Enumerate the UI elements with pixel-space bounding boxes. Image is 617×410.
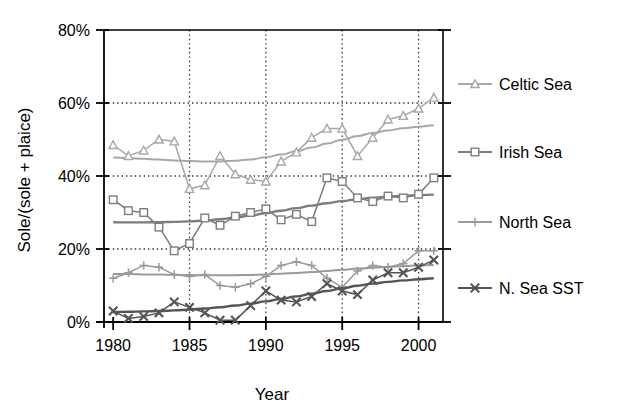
data-marker — [384, 192, 392, 200]
data-marker — [308, 218, 316, 226]
y-axis-title: Sole/(sole + plaice) — [15, 107, 34, 252]
y-tick-label: 40% — [58, 168, 90, 185]
x-axis-title: Year — [255, 385, 290, 404]
data-marker — [247, 209, 255, 217]
data-marker — [140, 209, 148, 217]
data-marker — [430, 174, 438, 182]
y-tick-label: 0% — [67, 314, 90, 331]
data-marker — [125, 207, 133, 215]
data-marker — [293, 211, 301, 219]
y-tick-label: 20% — [58, 241, 90, 258]
data-marker — [109, 196, 117, 204]
data-marker — [277, 216, 285, 224]
x-tick-label: 1995 — [324, 337, 360, 354]
legend-label: North Sea — [499, 214, 571, 231]
chart-canvas: 0%20%40%60%80%19801985199019952000 Sole/… — [0, 0, 617, 410]
data-marker — [170, 247, 178, 255]
data-marker — [216, 221, 224, 229]
y-tick-label: 80% — [58, 22, 90, 39]
legend-label: Celtic Sea — [499, 76, 572, 93]
data-marker — [415, 190, 423, 198]
x-tick-label: 1985 — [172, 337, 208, 354]
data-marker — [338, 178, 346, 186]
data-marker — [262, 205, 270, 213]
chart-figure: 0%20%40%60%80%19801985199019952000 Sole/… — [0, 0, 617, 410]
x-tick-label: 2000 — [401, 337, 437, 354]
data-marker — [369, 198, 377, 206]
legend-label: Irish Sea — [499, 144, 562, 161]
legend-label: N. Sea SST — [499, 280, 584, 297]
data-marker — [201, 214, 209, 222]
y-tick-label: 60% — [58, 95, 90, 112]
data-marker — [155, 223, 163, 231]
data-marker — [323, 174, 331, 182]
x-tick-label: 1990 — [248, 337, 284, 354]
data-marker — [186, 240, 194, 248]
x-tick-label: 1980 — [95, 337, 131, 354]
data-marker — [232, 212, 240, 220]
data-marker — [354, 194, 362, 202]
square-marker-icon — [471, 148, 479, 156]
data-marker — [400, 194, 408, 202]
